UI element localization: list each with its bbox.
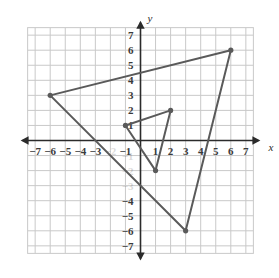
- y-axis-tick-label: 7: [128, 29, 134, 41]
- x-axis-tick-label: 7: [243, 145, 249, 157]
- x-axis-tick-label: −6: [44, 145, 56, 157]
- x-axis-tick-label: 3: [183, 145, 189, 157]
- y-axis-tick-label: −4: [122, 195, 134, 207]
- x-axis-tick-label: −7: [29, 145, 41, 157]
- y-axis-tick-label: −1: [122, 150, 134, 162]
- x-axis-tick-label: 2: [168, 145, 174, 157]
- vertex-dot: [153, 168, 158, 173]
- vertex-dot: [123, 123, 128, 128]
- x-axis-tick-label: −3: [89, 145, 101, 157]
- x-axis-tick-label: −5: [59, 145, 71, 157]
- y-axis-tick-label: 2: [128, 104, 134, 116]
- x-axis-tick-label: 1: [153, 145, 159, 157]
- vertex-dot: [228, 48, 233, 53]
- y-axis-tick-label: −7: [122, 240, 134, 252]
- coordinate-plane-svg: −7−6−5−4−3−2−112345677654321−1−2−3−4−5−6…: [0, 0, 279, 278]
- vertex-dot: [168, 108, 173, 113]
- x-axis-label: x: [268, 141, 274, 153]
- y-axis-tick-label: −6: [122, 225, 134, 237]
- y-axis-tick-label: −5: [122, 210, 134, 222]
- x-axis-tick-label: −4: [74, 145, 86, 157]
- x-axis-tick-label: 6: [228, 145, 234, 157]
- x-axis-tick-label: 5: [213, 145, 219, 157]
- vertex-dot: [48, 93, 53, 98]
- vertex-dot: [183, 228, 188, 233]
- y-axis-tick-label: 6: [128, 44, 134, 56]
- y-axis-tick-label: 5: [128, 59, 134, 71]
- y-axis-tick-label: −3: [122, 180, 134, 192]
- y-axis-tick-label: 3: [128, 89, 134, 101]
- x-axis-tick-label: 4: [198, 145, 204, 157]
- y-axis-label: y: [147, 12, 153, 24]
- coordinate-plane-figure: −7−6−5−4−3−2−112345677654321−1−2−3−4−5−6…: [0, 0, 279, 278]
- y-axis-tick-label: −2: [122, 165, 134, 177]
- figure-background: [0, 0, 279, 278]
